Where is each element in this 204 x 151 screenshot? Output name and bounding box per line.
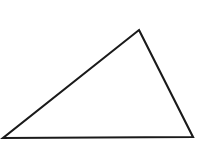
triangle-diagram: [0, 0, 204, 151]
figure-canvas: [0, 0, 204, 151]
